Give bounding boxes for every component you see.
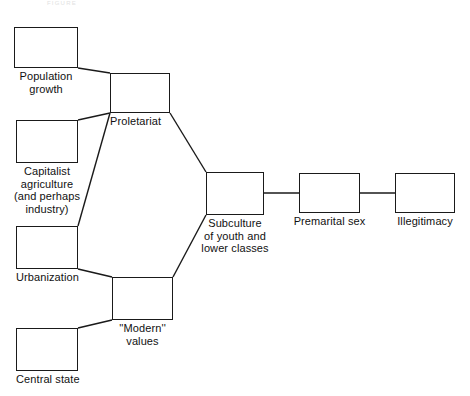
node-illegitimacy[interactable]: Illegitimacy bbox=[395, 173, 455, 213]
node-central-state[interactable]: Central state bbox=[16, 328, 78, 371]
node-box-modern-values bbox=[112, 277, 173, 320]
node-label-central-state: Central state bbox=[16, 373, 80, 386]
node-box-premarital-sex bbox=[299, 173, 360, 213]
node-capitalist-agriculture[interactable]: Capitalist agriculture (and perhaps indu… bbox=[16, 120, 78, 163]
node-subculture[interactable]: Subculture of youth and lower classes bbox=[206, 172, 264, 215]
node-label-capitalist-agriculture: Capitalist agriculture (and perhaps indu… bbox=[14, 165, 80, 215]
node-label-premarital-sex: Premarital sex bbox=[294, 215, 366, 228]
connector-proletariat-to-subculture bbox=[170, 113, 206, 172]
connector-population-growth-to-proletariat bbox=[78, 68, 110, 73]
node-premarital-sex[interactable]: Premarital sex bbox=[299, 173, 360, 213]
node-population-growth[interactable]: Population growth bbox=[14, 27, 78, 68]
connector-capitalist-agriculture-to-proletariat bbox=[78, 113, 110, 120]
node-label-population-growth: Population growth bbox=[20, 70, 73, 95]
node-box-central-state bbox=[16, 328, 78, 371]
node-label-illegitimacy: Illegitimacy bbox=[397, 215, 453, 228]
node-label-urbanization: Urbanization bbox=[16, 271, 79, 284]
node-box-urbanization bbox=[16, 226, 78, 269]
node-box-population-growth bbox=[14, 27, 78, 68]
diagram-canvas: FIGURE Population growthCapitalist agric… bbox=[0, 0, 470, 396]
node-label-subculture: Subculture of youth and lower classes bbox=[201, 217, 268, 255]
node-box-illegitimacy bbox=[395, 173, 455, 213]
connector-urbanization-to-proletariat bbox=[78, 113, 110, 226]
node-box-subculture bbox=[206, 172, 264, 215]
node-box-proletariat bbox=[110, 73, 170, 113]
node-modern-values[interactable]: ''Modern'' values bbox=[112, 277, 173, 320]
node-proletariat[interactable]: Proletariat bbox=[110, 73, 170, 113]
node-label-modern-values: ''Modern'' values bbox=[119, 322, 166, 347]
node-urbanization[interactable]: Urbanization bbox=[16, 226, 78, 269]
connector-urbanization-to-modern-values bbox=[78, 269, 112, 277]
node-box-capitalist-agriculture bbox=[16, 120, 78, 163]
node-label-proletariat: Proletariat bbox=[110, 115, 161, 128]
connector-central-state-to-modern-values bbox=[78, 320, 112, 328]
